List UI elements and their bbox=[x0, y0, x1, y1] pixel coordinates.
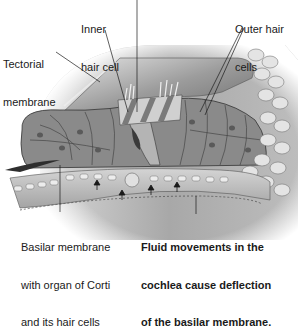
caption-fluid-movements: Fluid movements in the cochlea cause def… bbox=[141, 216, 271, 330]
label-outer-hair-cells: Outer hair cells bbox=[235, 0, 284, 86]
label-inner-hair-cell: Inner hair cell bbox=[81, 0, 119, 86]
label-basilar-membrane: Basilar membrane with organ of Corti and… bbox=[21, 216, 110, 330]
label-tectorial-membrane: Tectorial membrane bbox=[3, 33, 56, 121]
